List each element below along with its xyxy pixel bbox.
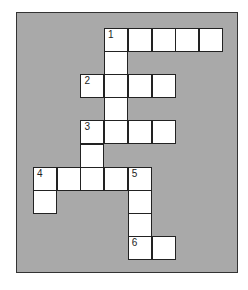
clue-number: 6 (132, 238, 138, 248)
clue-number: 1 (108, 30, 114, 40)
crossword-cell[interactable] (175, 28, 199, 52)
crossword-cell[interactable] (128, 74, 152, 98)
crossword-cell[interactable] (128, 213, 152, 237)
crossword-cell[interactable] (152, 236, 176, 260)
crossword-cell[interactable] (152, 120, 176, 144)
clue-number: 5 (132, 169, 138, 179)
crossword-cell[interactable]: 3 (80, 120, 104, 144)
crossword-cell[interactable] (152, 74, 176, 98)
crossword-cell[interactable] (104, 51, 128, 75)
clue-number: 3 (84, 122, 90, 132)
crossword-cell[interactable] (80, 144, 104, 168)
clue-number: 4 (37, 169, 43, 179)
crossword-cell[interactable] (104, 74, 128, 98)
crossword-cell[interactable] (128, 190, 152, 214)
crossword-cell[interactable]: 1 (104, 28, 128, 52)
crossword-cell[interactable] (128, 28, 152, 52)
crossword-cell[interactable] (104, 97, 128, 121)
crossword-cell[interactable] (104, 120, 128, 144)
crossword-cell[interactable] (80, 167, 104, 191)
crossword-cell[interactable]: 4 (33, 167, 57, 191)
crossword-cell[interactable] (152, 28, 176, 52)
crossword-cell[interactable]: 6 (128, 236, 152, 260)
clue-number: 2 (84, 76, 90, 86)
crossword-cell[interactable]: 2 (80, 74, 104, 98)
crossword-cell[interactable] (104, 167, 128, 191)
crossword-cell[interactable] (57, 167, 81, 191)
crossword-cell[interactable]: 5 (128, 167, 152, 191)
crossword-cell[interactable] (33, 190, 57, 214)
crossword-cell[interactable] (128, 120, 152, 144)
crossword-cell[interactable] (199, 28, 223, 52)
